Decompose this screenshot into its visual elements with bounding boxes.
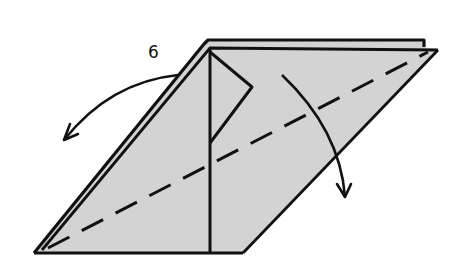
diagram-canvas xyxy=(0,0,462,270)
step-number-label: 6 xyxy=(148,42,159,62)
